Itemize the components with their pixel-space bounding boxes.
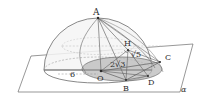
label-point-D: D xyxy=(148,78,154,87)
label-point-A: A xyxy=(92,7,100,17)
point-dot-H xyxy=(127,49,129,51)
point-dot-A xyxy=(97,17,99,19)
label-point-O: O xyxy=(97,74,104,83)
point-dot-D xyxy=(147,75,149,77)
label-segment-2root3: 2√3 xyxy=(110,60,125,69)
point-dot-O xyxy=(100,70,103,73)
label-plane-alpha: α xyxy=(181,85,187,94)
geometry-diagram: A H C D B O 6 2√3 √5 α xyxy=(0,0,211,100)
label-segment-root5: √5 xyxy=(131,50,141,59)
point-dot-C xyxy=(159,61,161,63)
point-dot-B xyxy=(125,79,127,81)
label-point-H: H xyxy=(124,39,131,48)
label-point-B: B xyxy=(123,84,129,93)
label-point-C: C xyxy=(165,53,171,62)
label-radius-6: 6 xyxy=(70,70,75,79)
